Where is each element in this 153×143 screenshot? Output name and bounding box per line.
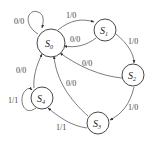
state-s2: S2 <box>122 64 144 86</box>
state-s0: S0 <box>37 29 65 57</box>
edge-s0-s1 <box>58 20 94 30</box>
label-s3-s4: 1/1 <box>56 123 66 132</box>
label-s4-s0: 0/0 <box>16 66 26 75</box>
edge-s0-s0 <box>28 11 43 34</box>
state-s3: S3 <box>87 112 109 134</box>
label-s3-s0: 0/0 <box>66 79 76 88</box>
label-s0-s1: 1/0 <box>66 11 76 20</box>
state-s4: S4 <box>31 87 53 109</box>
label-s2-s0: 0/0 <box>82 59 92 68</box>
state-s1: S1 <box>94 19 116 41</box>
edge-s3-s4 <box>48 108 87 128</box>
label-s1-s0: 0/0 <box>70 35 80 44</box>
label-s1-s2: 1/0 <box>128 37 138 46</box>
state-diagram: 0/0 1/0 0/0 1/0 0/0 1/0 0/0 1/1 0/0 1/1 … <box>0 0 153 143</box>
edge-s4-s0 <box>34 54 42 88</box>
label-s0-s0: 0/0 <box>14 17 24 26</box>
label-s2-s3: 1/0 <box>128 103 138 112</box>
label-s4-s4: 1/1 <box>8 96 18 105</box>
